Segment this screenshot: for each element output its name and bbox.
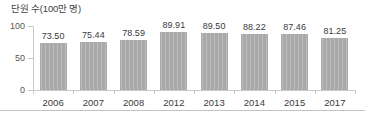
bar: [160, 32, 187, 90]
x-axis-category-label: 2012: [154, 97, 194, 108]
y-tick-label: 50: [15, 54, 25, 63]
x-tick-mark: [194, 90, 195, 94]
figure-bottom-rule: [0, 110, 365, 111]
bar: [241, 34, 268, 90]
bar: [201, 33, 228, 90]
x-tick-mark: [73, 90, 74, 94]
x-axis-category-label: 2007: [73, 97, 113, 108]
bar-value-label: 87.46: [275, 23, 315, 32]
x-axis-category-label: 2013: [194, 97, 234, 108]
bar-slot: [33, 16, 73, 90]
x-tick-mark: [315, 90, 316, 94]
bar-value-label: 88.22: [234, 23, 274, 32]
bar: [281, 34, 308, 90]
x-tick-mark: [275, 90, 276, 94]
bar-value-label: 73.50: [33, 32, 73, 41]
bar-slot: [73, 16, 113, 90]
bar-value-label: 78.59: [114, 29, 154, 38]
chart-title: 단원 수(100만 명): [11, 2, 81, 15]
y-tick-label: 100: [10, 22, 25, 31]
x-tick-mark: [355, 90, 356, 94]
x-axis-category-label: 2015: [275, 97, 315, 108]
y-tick-label: 0: [20, 86, 25, 95]
x-axis-category-label: 2008: [114, 97, 154, 108]
bar-value-label: 89.50: [194, 22, 234, 31]
x-tick-mark: [154, 90, 155, 94]
x-axis-category-label: 2014: [234, 97, 274, 108]
bar-chart-figure: 단원 수(100만 명) 050100 20062007200820122013…: [0, 0, 365, 122]
x-tick-mark: [33, 90, 34, 94]
bar: [80, 42, 107, 90]
x-tick-mark: [234, 90, 235, 94]
bar-value-label: 89.91: [154, 21, 194, 30]
x-axis-category-label: 2017: [315, 97, 355, 108]
bar: [40, 43, 67, 90]
bar: [120, 40, 147, 90]
x-tick-mark: [114, 90, 115, 94]
bar-value-label: 81.25: [315, 27, 355, 36]
x-axis-category-label: 2006: [33, 97, 73, 108]
bar-value-label: 75.44: [73, 31, 113, 40]
bar: [321, 38, 348, 90]
